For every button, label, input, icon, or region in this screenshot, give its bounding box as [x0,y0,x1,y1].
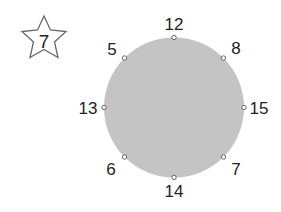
label-left: 13 [79,99,98,118]
label-bottom: 14 [165,182,184,201]
vertex-dot [102,105,106,109]
label-top-right: 8 [231,39,240,58]
vertex-dot [172,35,176,39]
label-top-left: 5 [107,40,116,59]
vertex-dot [172,175,176,179]
vertex-dot [122,56,126,60]
label-bottom-right: 7 [231,160,240,179]
vertex-dot [242,105,246,109]
label-right: 15 [250,99,269,118]
diagram-canvas: 7 12 8 15 7 14 6 13 5 [0,0,281,212]
vertex-dot [221,56,225,60]
label-bottom-left: 6 [106,160,115,179]
label-top: 12 [165,15,184,34]
star-badge: 7 [22,16,66,58]
vertex-dot [122,155,126,159]
star-value: 7 [39,31,50,52]
vertex-dot [221,155,225,159]
